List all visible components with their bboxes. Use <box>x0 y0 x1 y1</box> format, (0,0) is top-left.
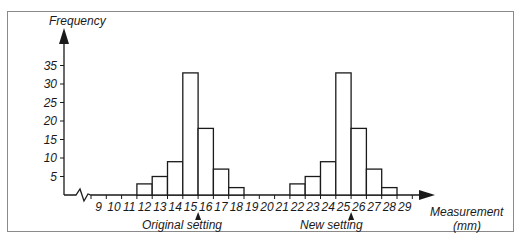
annotation-original-setting: Original setting <box>142 218 222 232</box>
bar-new <box>321 162 336 195</box>
x-tick-label: 13 <box>153 200 167 214</box>
x-axis-label-line1: Measurement <box>430 205 503 219</box>
x-tick-label: 29 <box>397 200 412 214</box>
y-tick-label: 10 <box>44 151 58 165</box>
x-tick-label: 22 <box>290 200 305 214</box>
annotation-new-setting: New setting <box>300 218 363 232</box>
y-axis-label: Frequency <box>49 14 106 28</box>
bar-new <box>351 128 366 195</box>
bar-new <box>366 169 381 195</box>
bar-new <box>290 184 305 195</box>
x-tick-label: 11 <box>123 200 135 214</box>
bar-original <box>183 73 198 195</box>
x-tick-label: 15 <box>184 200 198 214</box>
x-tick-label: 26 <box>351 200 366 214</box>
y-tick-label: 20 <box>43 114 58 128</box>
x-tick-label: 27 <box>366 200 382 214</box>
bar-original <box>198 128 213 195</box>
x-tick-label: 10 <box>107 200 121 214</box>
y-axis-arrow-icon <box>59 28 69 44</box>
x-axis-label-line2: (mm) <box>453 219 481 233</box>
x-tick-label: 12 <box>138 200 152 214</box>
x-tick-label: 28 <box>382 200 397 214</box>
y-tick-label: 35 <box>44 59 58 73</box>
bar-original <box>137 184 152 195</box>
x-tick-label: 19 <box>245 200 259 214</box>
bar-original <box>152 177 167 196</box>
y-tick-label: 25 <box>43 96 58 110</box>
bar-original <box>168 162 183 195</box>
x-tick-label: 17 <box>214 200 229 214</box>
x-tick-label: 21 <box>275 200 289 214</box>
x-tick-label: 20 <box>259 200 274 214</box>
y-tick-label: 30 <box>44 77 58 91</box>
x-tick-label: 14 <box>168 200 182 214</box>
x-tick-label: 25 <box>336 200 351 214</box>
x-tick-label: 18 <box>230 200 244 214</box>
x-tick-label: 23 <box>305 200 320 214</box>
bar-original <box>229 188 244 195</box>
bar-new <box>305 177 320 196</box>
x-tick-label: 16 <box>199 200 213 214</box>
y-tick-label: 15 <box>44 133 58 147</box>
x-tick-label: 9 <box>95 200 102 214</box>
x-axis-arrow-icon <box>419 190 435 200</box>
x-tick-label: 24 <box>320 200 335 214</box>
bar-new <box>382 188 397 195</box>
y-tick-label: 5 <box>50 170 57 184</box>
bar-original <box>213 169 228 195</box>
bar-new <box>336 73 351 195</box>
